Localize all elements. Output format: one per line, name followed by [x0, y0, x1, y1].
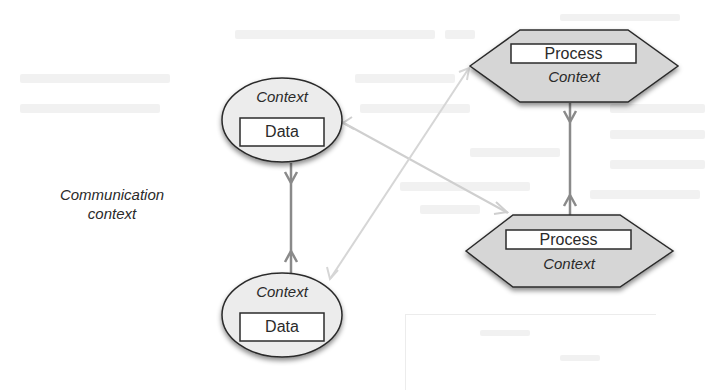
- data-top-context-label: Context: [232, 88, 332, 105]
- process-bottom-context-label: Context: [519, 255, 619, 272]
- process-top-inner-label: Process: [511, 45, 636, 62]
- process-node-top[interactable]: [470, 30, 678, 102]
- process-bottom-inner-label: Process: [506, 231, 631, 248]
- edge-data-bottom-to-process-top: [327, 68, 469, 279]
- communication-label-line2: context: [36, 204, 188, 223]
- data-bottom-context-label: Context: [232, 283, 332, 300]
- edge-process-top-to-process-bottom: [564, 103, 576, 215]
- edge-data-top-to-data-bottom: [285, 163, 297, 273]
- data-top-inner-label: Data: [240, 123, 324, 140]
- process-node-bottom[interactable]: [466, 215, 673, 287]
- edge-data-top-to-process-bottom: [342, 117, 508, 214]
- process-top-context-label: Context: [524, 68, 624, 85]
- communication-label-line1: Communication: [36, 185, 188, 204]
- communication-context-label: Communication context: [36, 185, 188, 223]
- data-bottom-inner-label: Data: [240, 318, 324, 335]
